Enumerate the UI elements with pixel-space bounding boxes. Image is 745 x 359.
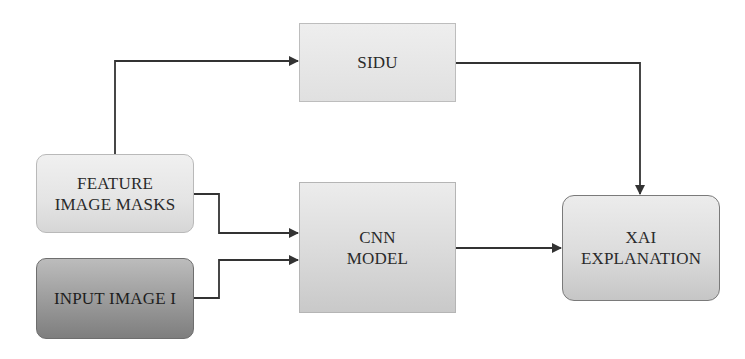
- node-sidu: SIDU: [299, 23, 456, 102]
- flowchart-diagram: SIDU FEATURE IMAGE MASKS INPUT IMAGE I C…: [0, 0, 745, 359]
- node-xai-explanation: XAI EXPLANATION: [562, 195, 720, 301]
- node-label-line-1: FEATURE: [55, 173, 176, 194]
- edge-feature-to-cnn: [194, 194, 298, 233]
- node-label-line-2: MODEL: [347, 248, 408, 269]
- node-cnn-model: CNN MODEL: [299, 182, 456, 313]
- node-label-line-1: XAI: [581, 227, 701, 248]
- edge-sidu-to-xai: [456, 63, 640, 194]
- node-label-line-2: EXPLANATION: [581, 248, 701, 269]
- edge-input-to-cnn: [194, 260, 298, 298]
- node-input-image: INPUT IMAGE I: [36, 258, 194, 339]
- node-feature-image-masks: FEATURE IMAGE MASKS: [36, 154, 194, 233]
- node-label: INPUT IMAGE I: [54, 288, 176, 309]
- node-label-line-2: IMAGE MASKS: [55, 194, 176, 215]
- edge-feature-to-sidu: [115, 61, 298, 154]
- node-label: SIDU: [357, 52, 397, 73]
- node-label-line-1: CNN: [347, 227, 408, 248]
